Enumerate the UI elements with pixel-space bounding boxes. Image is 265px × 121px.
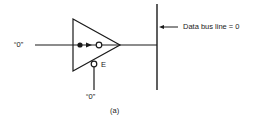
arrow-left-icon xyxy=(159,25,164,29)
open-circle-icon xyxy=(96,42,102,48)
caption: (a) xyxy=(110,107,119,115)
filled-dot-icon xyxy=(77,42,82,47)
arrow-right-icon xyxy=(86,43,92,48)
buffer-diagram xyxy=(0,0,265,121)
bus-label: Data bus line = 0 xyxy=(183,23,240,31)
enable-circle-icon xyxy=(91,61,97,67)
enable-label: E xyxy=(101,61,106,69)
enable-input-label: “0” xyxy=(86,93,95,101)
input-label: “0” xyxy=(14,41,23,49)
